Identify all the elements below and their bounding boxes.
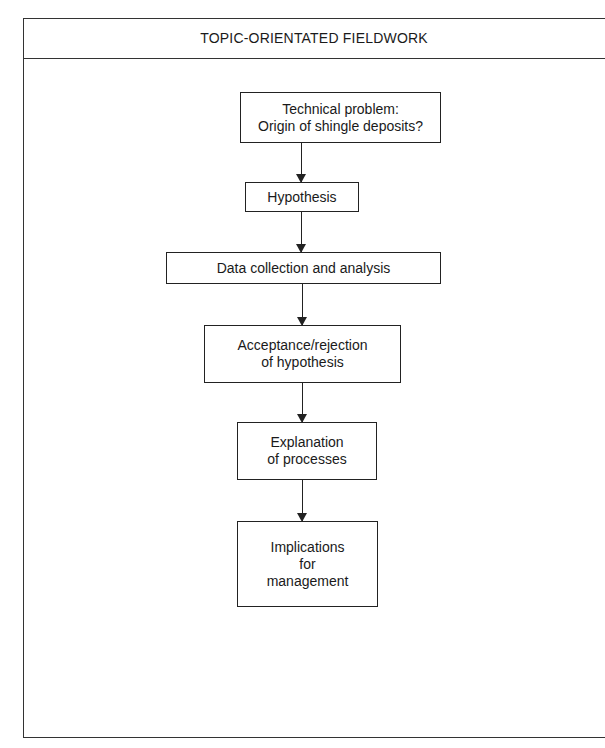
step-text: Data collection and analysis [217, 260, 391, 277]
step-implications: Implications for management [237, 521, 378, 607]
step-technical-problem: Technical problem: Origin of shingle dep… [240, 92, 441, 143]
step-explanation: Explanation of processes [237, 422, 377, 480]
step-text: Origin of shingle deposits? [258, 118, 423, 135]
step-text: Explanation [270, 434, 343, 451]
step-text: management [267, 573, 349, 590]
step-text: Technical problem: [282, 101, 399, 118]
step-text: Hypothesis [267, 189, 336, 206]
arrow-down-icon [302, 383, 303, 422]
step-data-collection: Data collection and analysis [166, 252, 441, 284]
arrow-down-icon [301, 143, 302, 182]
frame-left-border [23, 18, 24, 738]
step-text: Acceptance/rejection [238, 337, 368, 354]
arrow-down-icon [302, 284, 303, 325]
step-text: of processes [267, 451, 346, 468]
step-text: of hypothesis [261, 354, 344, 371]
header-divider [23, 58, 605, 59]
arrow-down-icon [301, 212, 302, 252]
figure-title: TOPIC-ORIENTATED FIELDWORK [23, 18, 605, 58]
frame-bottom-border [23, 737, 605, 738]
step-hypothesis: Hypothesis [245, 182, 359, 212]
arrow-down-icon [302, 480, 303, 521]
step-text: for [299, 556, 315, 573]
step-text: Implications [271, 539, 345, 556]
step-acceptance-rejection: Acceptance/rejection of hypothesis [204, 325, 401, 383]
